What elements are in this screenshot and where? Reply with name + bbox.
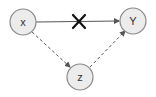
node-y: Y <box>120 8 146 34</box>
node-z-label: z <box>77 71 83 83</box>
node-x-label: x <box>20 16 26 28</box>
edge-z-to-y <box>90 31 125 67</box>
causal-diagram: x Y z <box>0 0 156 97</box>
node-x: x <box>10 9 36 35</box>
node-z: z <box>67 64 93 90</box>
node-y-label: Y <box>129 15 137 27</box>
edge-x-to-z <box>32 32 70 67</box>
